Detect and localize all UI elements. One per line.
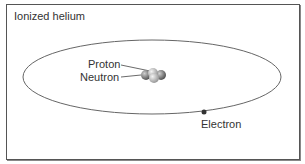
nucleus (141, 68, 166, 83)
electron-label: Electron (201, 118, 241, 130)
proton-label: Proton (88, 58, 120, 70)
neutron-label: Neutron (80, 71, 119, 83)
proton-particle (149, 73, 159, 83)
neutron-leader-line (121, 75, 141, 77)
atom-illustration (0, 0, 305, 164)
electron-particle (202, 110, 207, 115)
